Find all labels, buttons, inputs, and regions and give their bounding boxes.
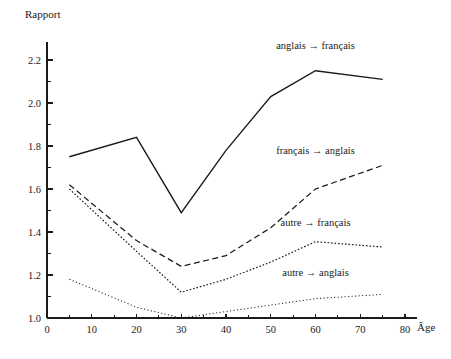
- x-axis-title: Âge: [417, 321, 435, 333]
- y-tick-label: 1.6: [9, 184, 41, 195]
- y-tick-label: 2.0: [9, 98, 41, 109]
- series-label-2: autre → français: [281, 217, 351, 228]
- x-tick-label: 60: [310, 324, 321, 335]
- series-label-3: autre → anglais: [282, 267, 348, 278]
- line-chart-plot: [0, 0, 451, 359]
- y-axis-title: Rapport: [25, 8, 60, 20]
- x-tick-label: 30: [176, 324, 187, 335]
- series-label-1: français → anglais: [276, 145, 355, 156]
- y-tick-label: 1.4: [9, 227, 41, 238]
- x-tick-label: 80: [400, 324, 411, 335]
- series-line-0: [69, 71, 382, 213]
- x-tick-label: 40: [221, 324, 232, 335]
- y-tick-label: 1.2: [9, 270, 41, 281]
- chart-figure: Rapport Âge 1.01.21.41.61.82.02.2 010203…: [0, 0, 451, 359]
- x-tick-label: 20: [131, 324, 142, 335]
- tick-marks: [47, 60, 405, 318]
- axis-lines: [47, 42, 417, 318]
- x-tick-label: 50: [266, 324, 277, 335]
- x-tick-label: 10: [87, 324, 98, 335]
- x-tick-label: 70: [355, 324, 366, 335]
- y-tick-label: 1.8: [9, 141, 41, 152]
- series-label-0: anglais → français: [276, 40, 355, 51]
- y-tick-label: 2.2: [9, 55, 41, 66]
- series-line-3: [69, 279, 382, 318]
- series-paths: [69, 71, 382, 318]
- y-tick-label: 1.0: [9, 313, 41, 324]
- x-tick-label: 0: [44, 324, 49, 335]
